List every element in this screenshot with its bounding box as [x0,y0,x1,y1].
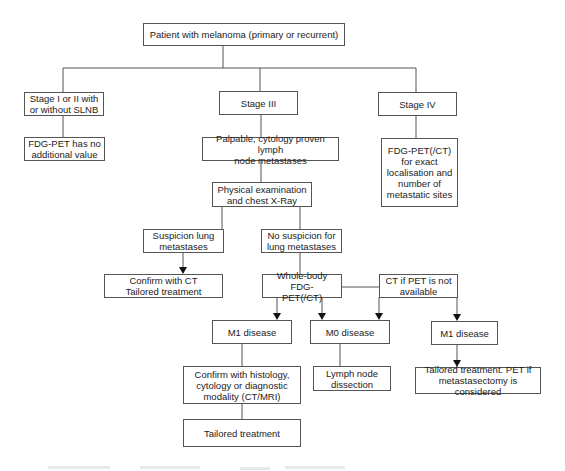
node-stage-1-2: Stage I or II with or without SLNB [24,92,104,116]
node-physical-exam: Physical examination and chest X-Ray [212,182,312,207]
faint-caption-fragment [240,467,270,470]
node-ct-if-no-pet: CT if PET is not available [379,274,458,298]
node-no-additional-value: FDG-PET has no additional value [24,137,105,161]
node-palpable-label: Palpable, cytology proven lymph node met… [205,133,336,166]
node-m0-disease: M0 disease [310,320,390,344]
faint-caption-fragment [285,466,345,469]
node-confirm-ct: Confirm with CT Tailored treatment [104,274,223,298]
node-tailored-treatment-pet-label: Tailored treatment. PET if metastasectom… [418,364,538,397]
node-stage-4-label: Stage IV [399,99,435,110]
node-stage-3: Stage III [219,91,298,115]
node-suspicion-lung-label: Suspicion lung metastases [153,230,215,252]
node-no-suspicion-lung-label: No suspicion for lung metastases [267,230,336,252]
node-lymph-node-dissection-label: Lymph node dissection [326,368,378,390]
node-suspicion-lung: Suspicion lung metastases [143,229,224,253]
node-no-additional-value-label: FDG-PET has no additional value [28,138,101,160]
faint-caption-fragment [48,466,110,469]
node-confirm-histology-label: Confirm with histology, cytology or diag… [195,369,290,402]
node-stage-4-pet-label: FDG-PET(/CT) for exact localisation and … [387,145,453,200]
node-m1-disease-right-label: M1 disease [440,328,489,339]
node-m0-disease-label: M0 disease [326,327,375,338]
node-confirm-ct-label: Confirm with CT Tailored treatment [125,275,201,297]
node-tailored-treatment-pet: Tailored treatment. PET if metastasectom… [415,367,541,394]
node-palpable: Palpable, cytology proven lymph node met… [202,137,339,161]
node-tailored-treatment: Tailored treatment [183,419,301,447]
node-stage-1-2-label: Stage I or II with or without SLNB [30,93,99,115]
node-lymph-node-dissection: Lymph node dissection [313,366,391,391]
node-m1-disease-left-label: M1 disease [228,327,277,338]
node-stage-4-pet: FDG-PET(/CT) for exact localisation and … [381,138,458,207]
faint-caption-fragment [140,466,200,469]
node-root-label: Patient with melanoma (primary or recurr… [150,29,338,40]
node-m1-disease-left: M1 disease [212,320,292,344]
node-tailored-treatment-label: Tailored treatment [204,428,280,439]
node-m1-disease-right: M1 disease [431,321,498,345]
node-stage-3-label: Stage III [241,98,276,109]
node-no-suspicion-lung: No suspicion for lung metastases [261,229,342,253]
node-confirm-histology: Confirm with histology, cytology or diag… [183,366,301,404]
node-ct-if-no-pet-label: CT if PET is not available [385,275,451,297]
node-whole-body-pet: Whole-body FDG- PET(/CT) [262,274,342,298]
node-root: Patient with melanoma (primary or recurr… [143,23,345,46]
node-stage-4: Stage IV [378,92,457,116]
node-whole-body-pet-label: Whole-body FDG- PET(/CT) [265,270,339,303]
node-physical-exam-label: Physical examination and chest X-Ray [217,184,306,206]
